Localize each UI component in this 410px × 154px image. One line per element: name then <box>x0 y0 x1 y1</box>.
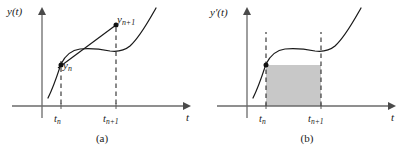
t-axis-label-b: t <box>391 112 394 123</box>
panel-a: y(t) t yn yn+1 tn tn+1 (a) <box>0 0 205 154</box>
point-label-ynp1-sub: n+1 <box>122 18 135 27</box>
solution-curve-a <box>48 8 156 98</box>
figure-root: y(t) t yn yn+1 tn tn+1 (a) <box>0 0 410 154</box>
y-axis-label-b: y′(t) <box>210 7 228 18</box>
point-label-ynp1: yn+1 <box>117 14 135 25</box>
tick-label-tn-a-sub: n <box>57 117 61 126</box>
t-axis-label-a: t <box>186 112 189 123</box>
tick-label-tn-b: tn <box>259 114 266 125</box>
point-label-yn: yn <box>63 60 72 71</box>
tick-label-tnp1-b: tn+1 <box>308 114 324 125</box>
tick-label-tnp1-a-sub: n+1 <box>106 117 119 126</box>
marker-tn-b <box>264 63 269 68</box>
panel-b-plot <box>205 0 410 154</box>
tick-label-tn-b-sub: n <box>262 117 266 126</box>
y-axis-label-b-arg: (t) <box>217 6 227 18</box>
panel-caption-a: (a) <box>82 133 122 144</box>
panel-b: y′(t) t tn tn+1 (b) <box>205 0 410 154</box>
tick-label-tnp1-b-sub: n+1 <box>311 117 324 126</box>
y-axis-label-a-arg: (t) <box>12 5 22 17</box>
panel-caption-b: (b) <box>287 133 327 144</box>
tick-label-tn-a: tn <box>54 114 61 125</box>
euler-rectangle-shading <box>266 65 321 106</box>
panel-a-plot <box>0 0 205 154</box>
y-axis-label-a: y(t) <box>7 6 22 17</box>
tick-label-tnp1-a: tn+1 <box>103 114 119 125</box>
point-label-yn-sub: n <box>68 64 72 73</box>
